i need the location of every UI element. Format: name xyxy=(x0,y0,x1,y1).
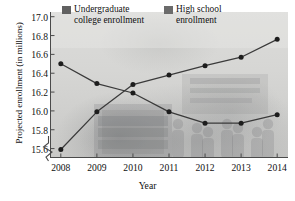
y-tick-label: 16.0 xyxy=(18,105,48,116)
x-tick-label: 2009 xyxy=(87,162,106,173)
y-tick-label: 16.4 xyxy=(18,68,48,79)
y-tick-label: 15.8 xyxy=(18,124,48,135)
legend-item-high-school: High school enrollment xyxy=(164,4,250,27)
y-tick-label: 17.0 xyxy=(18,11,48,22)
chart-legend: Undergraduate college enrollment High sc… xyxy=(62,4,250,27)
legend-label: High school enrollment xyxy=(176,4,250,27)
x-tick-label: 2012 xyxy=(195,162,214,173)
legend-label: Undergraduate college enrollment xyxy=(74,4,148,27)
legend-swatch-icon xyxy=(164,6,173,14)
y-tick-label: 16.6 xyxy=(18,49,48,60)
y-tick-label: 16.8 xyxy=(18,30,48,41)
x-tick-label: 2013 xyxy=(232,162,251,173)
chart-figure: Projected enrollment (in millions) 15.61… xyxy=(0,0,295,201)
series-lines xyxy=(50,12,288,158)
axis-break-icon xyxy=(42,136,56,162)
x-tick-label: 2008 xyxy=(51,162,70,173)
x-tick-label: 2011 xyxy=(160,162,179,173)
x-axis-tick-labels: 2008200920102011201220132014 xyxy=(0,162,295,178)
x-tick-label: 2010 xyxy=(123,162,142,173)
plot-area xyxy=(50,12,288,158)
legend-item-undergraduate: Undergraduate college enrollment xyxy=(62,4,148,27)
x-axis-title: Year xyxy=(0,180,295,191)
legend-swatch-icon xyxy=(62,6,71,14)
y-tick-label: 16.2 xyxy=(18,87,48,98)
x-tick-label: 2014 xyxy=(268,162,287,173)
